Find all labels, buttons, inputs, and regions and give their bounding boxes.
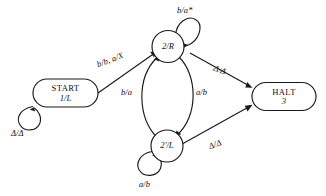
state-label-2pl: 2'/L: [151, 141, 183, 151]
state-label-start-line2: 1/L: [33, 94, 98, 104]
state-label-2r: 2/R: [152, 42, 184, 52]
state-label-start: START 1/L: [33, 84, 98, 103]
edge-start-self-loop: [18, 107, 40, 130]
edge-label-2pl-self: a/b: [139, 180, 150, 190]
state-label-halt-line2: 3: [252, 97, 316, 107]
edge-2pl-to-2r: [142, 55, 159, 137]
edge-label-start-self: Δ/Δ: [11, 129, 24, 139]
edge-label-2pl-to-2r: b/a: [121, 88, 132, 98]
state-label-halt: HALT 3: [252, 88, 316, 107]
edge-label-2r-self: b/a*: [177, 6, 193, 16]
edge-label-2r-to-2pl: a/b: [196, 88, 207, 98]
state-diagram-canvas: START 1/L HALT 3 2/R 2'/L Δ/Δ b/b, a/X b…: [0, 0, 326, 196]
edge-2r-to-2pl: [175, 57, 193, 137]
